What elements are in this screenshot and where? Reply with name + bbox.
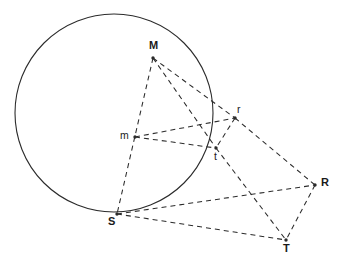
segment-S-T: [117, 214, 286, 240]
segment-S-R: [117, 185, 315, 214]
vertices-layer: [115, 56, 316, 241]
main-circle: [15, 14, 213, 212]
vertex-point-R: [313, 183, 316, 186]
figure-caption: [0, 260, 341, 274]
geometry-canvas: [0, 0, 341, 274]
point-label-R: R: [321, 177, 329, 188]
circle-layer: [15, 14, 213, 212]
vertex-point-M: [151, 56, 154, 59]
geometry-figure: MmrtSRT: [0, 0, 341, 274]
segment-R-T: [286, 185, 315, 240]
vertex-point-m: [133, 135, 136, 138]
segment-M-r: [153, 58, 235, 118]
point-label-m: m: [120, 130, 129, 141]
segment-m-t: [135, 137, 216, 148]
vertex-point-S: [115, 212, 118, 215]
point-label-t: t: [214, 151, 217, 162]
point-label-S: S: [108, 216, 115, 227]
point-label-r: r: [237, 104, 241, 115]
segment-M-t: [153, 58, 216, 148]
vertex-point-r: [233, 116, 236, 119]
point-label-T: T: [283, 243, 290, 254]
segment-r-R: [235, 118, 315, 185]
segment-m-r: [135, 118, 235, 137]
segment-r-t: [216, 118, 235, 148]
point-label-M: M: [149, 40, 158, 51]
